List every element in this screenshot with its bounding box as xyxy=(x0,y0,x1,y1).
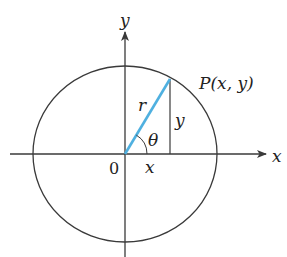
point-label: P(x, y) xyxy=(198,73,254,93)
y-axis-label: y xyxy=(119,10,130,30)
polar-coordinate-diagram: y x 0 P(x, y) r y x θ xyxy=(0,0,287,257)
horizontal-leg-label: x xyxy=(145,157,155,177)
origin-label: 0 xyxy=(109,159,119,178)
x-axis-label: x xyxy=(272,146,282,166)
vertical-leg-label: y xyxy=(174,110,185,130)
angle-arc xyxy=(136,135,147,154)
radius-label: r xyxy=(138,95,147,115)
angle-label: θ xyxy=(148,130,158,150)
